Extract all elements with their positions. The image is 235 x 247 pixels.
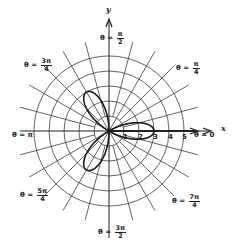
radial-tick-5: 5 [182,133,187,141]
grid-spoke [29,131,109,177]
grid-spoke [20,107,94,127]
grid-spoke [29,85,109,131]
grid-spoke [63,131,109,211]
angle-label-pi-4: θ = π4 [176,61,200,76]
grid-spoke [109,51,155,131]
angle-label-7pi-4: θ = 7π4 [172,194,200,209]
angle-label-pi-2: θ = π2 [100,31,124,46]
radial-tick-2: 2 [138,133,143,141]
x-axis-label: x [221,123,226,133]
y-axis-label: y [106,4,111,14]
grid-spoke [123,107,197,127]
grid-spoke [113,42,133,116]
angle-label-3pi-4: θ = 3π4 [24,58,52,73]
radial-tick-3: 3 [153,133,158,141]
grid-spoke [113,145,133,219]
radial-tick-4: 4 [168,133,173,141]
grid-spoke [85,42,105,116]
angle-label-3pi-2: θ = 3π2 [98,225,126,240]
angle-label-0: θ = 0 [194,132,214,139]
angle-label-5pi-4: θ = 5π4 [20,188,48,203]
grid-spoke [85,145,105,219]
polar-graph: y x 1 2 3 4 5 θ = π2 θ = 3π4 θ = π4 θ = … [0,0,235,247]
grid-spoke [109,131,155,211]
angle-label-pi: θ = π [12,132,33,139]
radial-tick-1: 1 [123,133,128,141]
grid-spoke [63,51,109,131]
